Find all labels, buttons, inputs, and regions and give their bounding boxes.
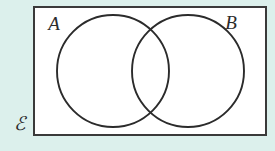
venn-diagram-svg: A B ℰ <box>0 0 275 151</box>
set-b-label: B <box>225 12 237 33</box>
universal-set-symbol: ℰ <box>14 112 28 134</box>
venn-diagram-canvas: A B ℰ <box>0 0 275 151</box>
set-a-label: A <box>46 13 60 34</box>
